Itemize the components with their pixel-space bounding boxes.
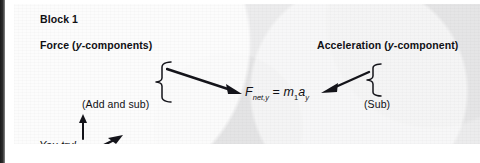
arrow-down-right-icon: [166, 67, 246, 99]
figure-panel: Block 1 Force (y-components) Acceleratio…: [14, 4, 480, 144]
arrow-up-right-icon: [94, 134, 124, 144]
right-operation-label: (Sub): [364, 99, 390, 110]
net-force-equation: Fnet,y = m1ay: [245, 86, 309, 101]
block-title: Block 1: [40, 14, 78, 25]
force-heading: Force (y-components): [40, 40, 152, 51]
arrow-up-icon: [76, 114, 90, 140]
figure-screenshot: Block 1 Force (y-components) Acceleratio…: [0, 0, 480, 163]
acceleration-heading: Acceleration (y-component): [317, 40, 458, 51]
you-try-label: You try!: [39, 140, 76, 144]
left-operation-label: (Add and sub): [82, 99, 149, 110]
arrow-down-left-icon: [319, 70, 371, 96]
page-binding-spine: [0, 0, 5, 163]
